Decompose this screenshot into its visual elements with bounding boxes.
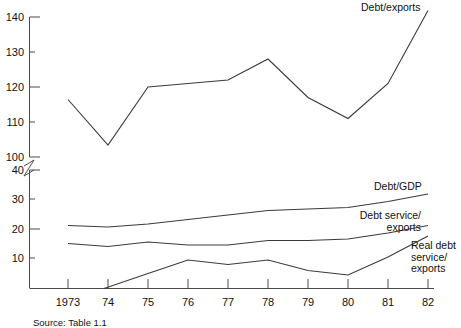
x-axis-label-75: 75 <box>128 296 168 308</box>
series-label-debt-service-line2: exports <box>353 222 421 234</box>
chart-figure: 140 130 120 110 100 40 30 20 10 1973 74 … <box>0 0 461 328</box>
series-label-debt-service-exports: Debt service/ exports <box>353 210 421 233</box>
x-axis-label-81: 81 <box>368 296 408 308</box>
x-axis-label-79: 79 <box>288 296 328 308</box>
y-axis-label-30: 30 <box>0 193 24 205</box>
y-axis-label-140: 140 <box>0 11 24 23</box>
series-line-real-debt-service-exports <box>104 236 428 289</box>
series-label-debt-service-line1: Debt service/ <box>353 210 421 222</box>
x-axis-label-82: 82 <box>408 296 448 308</box>
y-axis-label-40: 40 <box>0 164 24 176</box>
x-axis-label-78: 78 <box>248 296 288 308</box>
x-axis-label-1973: 1973 <box>48 296 88 308</box>
series-label-real-debt-line1: Real debt <box>411 240 456 252</box>
y-axis-label-10: 10 <box>0 252 24 264</box>
data-lines-group <box>68 11 428 289</box>
y-axis-label-130: 130 <box>0 46 24 58</box>
chart-canvas <box>0 0 461 328</box>
series-label-debt-exports: Debt/exports <box>361 2 421 14</box>
x-axis-label-80: 80 <box>328 296 368 308</box>
series-label-real-debt-line3: exports <box>411 263 456 275</box>
y-axis-label-110: 110 <box>0 116 24 128</box>
y-axis-group <box>24 17 40 288</box>
y-axis-label-120: 120 <box>0 81 24 93</box>
y-axis-label-100: 100 <box>0 151 24 163</box>
series-line-debt-exports <box>68 11 428 146</box>
x-axis-group <box>30 279 435 289</box>
source-note: Source: Table 1.1 <box>33 317 107 328</box>
series-label-debt-gdp: Debt/GDP <box>374 181 422 193</box>
x-axis-label-76: 76 <box>168 296 208 308</box>
x-axis-label-77: 77 <box>208 296 248 308</box>
series-label-real-debt-service-exports: Real debt service/ exports <box>411 240 456 275</box>
y-axis-label-20: 20 <box>0 223 24 235</box>
x-axis-label-74: 74 <box>88 296 128 308</box>
